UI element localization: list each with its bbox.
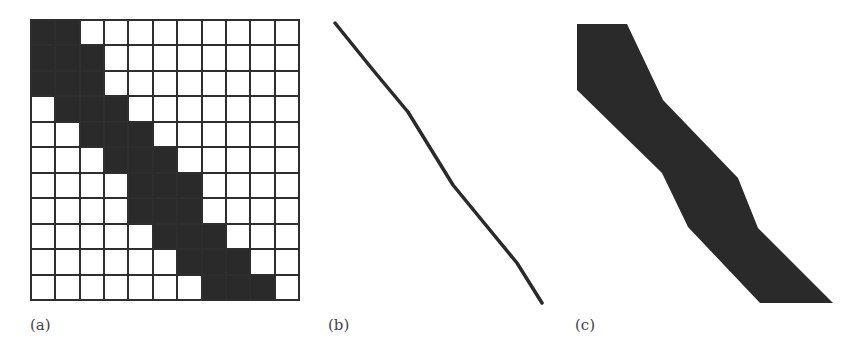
label-a: (a) (30, 316, 51, 334)
label-b: (b) (328, 316, 349, 334)
panel-c-thick-band (577, 24, 833, 303)
vector-panels (0, 0, 867, 357)
label-c: (c) (575, 316, 595, 334)
panel-b-line-path (335, 23, 542, 303)
